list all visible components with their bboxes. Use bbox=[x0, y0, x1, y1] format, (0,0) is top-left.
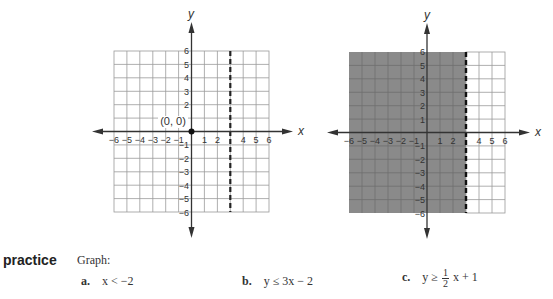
practice-section: practice Graph: a. x < −2 b. y ≤ 3x − 2 … bbox=[0, 252, 553, 299]
item-expression: y ≤ 3x − 2 bbox=[264, 274, 313, 288]
svg-text:6: 6 bbox=[502, 136, 507, 146]
svg-text:−6: −6 bbox=[344, 136, 354, 146]
svg-text:2: 2 bbox=[420, 101, 425, 111]
item-expression: x < −2 bbox=[102, 274, 134, 288]
svg-text:2: 2 bbox=[450, 136, 455, 146]
practice-prompt: Graph: bbox=[77, 253, 110, 268]
svg-text:−3: −3 bbox=[415, 168, 425, 178]
item-letter: c. bbox=[402, 270, 410, 284]
svg-text:3: 3 bbox=[420, 88, 425, 98]
svg-text:−6: −6 bbox=[415, 209, 425, 219]
x-axis-label: x bbox=[534, 125, 542, 139]
svg-text:−5: −5 bbox=[357, 136, 367, 146]
svg-text:4: 4 bbox=[420, 74, 425, 84]
graph-right: x y x −6 −5 −4 −3 −2 −1 1 2 4 5 6 6 5 4 … bbox=[0, 0, 553, 250]
item-letter: b. bbox=[242, 274, 252, 288]
practice-item-a: a. x < −2 bbox=[81, 274, 134, 289]
practice-title: practice bbox=[3, 252, 57, 268]
svg-text:1: 1 bbox=[420, 115, 425, 125]
svg-text:−1: −1 bbox=[415, 141, 425, 151]
svg-text:5: 5 bbox=[489, 136, 494, 146]
svg-text:−5: −5 bbox=[415, 195, 425, 205]
svg-text:−2: −2 bbox=[396, 136, 406, 146]
practice-item-b: b. y ≤ 3x − 2 bbox=[242, 274, 313, 289]
practice-item-c: c. y ≥ 1 2 x + 1 bbox=[402, 268, 478, 289]
fraction-denominator: 2 bbox=[442, 279, 449, 289]
fraction: 1 2 bbox=[442, 268, 449, 289]
svg-text:4: 4 bbox=[476, 136, 481, 146]
svg-text:5: 5 bbox=[420, 61, 425, 71]
svg-text:6: 6 bbox=[420, 47, 425, 57]
item-letter: a. bbox=[81, 274, 90, 288]
svg-text:−4: −4 bbox=[415, 182, 425, 192]
item-expression-rhs: x + 1 bbox=[453, 270, 478, 284]
item-expression-lhs: y ≥ bbox=[422, 270, 441, 284]
svg-text:−2: −2 bbox=[415, 155, 425, 165]
y-axis-label: y bbox=[423, 8, 431, 22]
svg-text:−4: −4 bbox=[370, 136, 380, 146]
svg-text:1: 1 bbox=[437, 136, 442, 146]
svg-text:−3: −3 bbox=[383, 136, 393, 146]
